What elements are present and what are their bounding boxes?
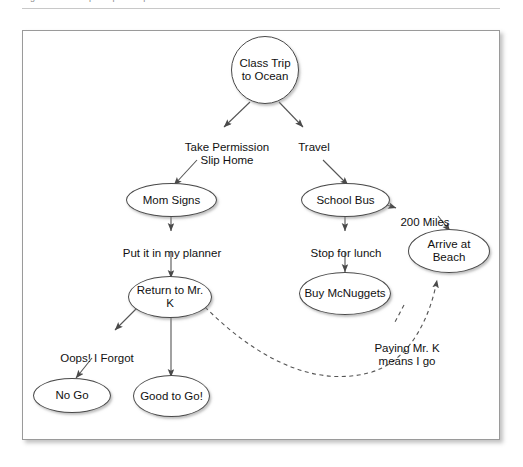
edge-label-oops-forgot-text: Oops! I Forgot <box>60 352 134 364</box>
node-no-go-label: No Go <box>52 389 91 402</box>
node-return-mr-k-label: Return to Mr. K <box>129 284 211 310</box>
figure-page: Figure 1. Concept map example <box>0 0 523 467</box>
node-mom-signs-label: Mom Signs <box>140 194 204 207</box>
edge-label-take-permission-text: Take Permission Slip Home <box>185 141 269 166</box>
edge-label-stop-lunch-text: Stop for lunch <box>311 247 382 259</box>
edge-label-200-miles-text: 200 Miles <box>400 216 449 228</box>
node-class-trip-label: Class Trip to Ocean <box>232 57 298 83</box>
node-no-go[interactable]: No Go <box>33 378 111 413</box>
node-school-bus[interactable]: School Bus <box>301 183 390 217</box>
node-mom-signs[interactable]: Mom Signs <box>126 183 217 217</box>
node-arrive-beach-label: Arrive at Beach <box>409 238 489 264</box>
node-arrive-beach[interactable]: Arrive at Beach <box>408 229 490 273</box>
edge-label-put-planner-text: Put it in my planner <box>123 247 221 259</box>
edge-label-paying-mr-k-text: Paying Mr. K means I go <box>374 342 439 367</box>
edge-label-stop-lunch: Stop for lunch <box>302 234 390 260</box>
node-good-to-go[interactable]: Good to Go! <box>133 375 210 417</box>
node-school-bus-label: School Bus <box>313 194 377 207</box>
caption-strip: Figure 1. Concept map example <box>0 0 523 9</box>
edge-label-take-permission: Take Permission Slip Home <box>165 128 289 167</box>
edge-label-travel-text: Travel <box>298 141 330 153</box>
node-return-mr-k[interactable]: Return to Mr. K <box>128 276 212 318</box>
node-buy-mcnuggets[interactable]: Buy McNuggets <box>299 272 391 315</box>
edge-label-put-planner: Put it in my planner <box>104 234 240 260</box>
caption-text: Figure 1. Concept map example <box>22 0 156 2</box>
node-class-trip[interactable]: Class Trip to Ocean <box>231 36 299 104</box>
edge-label-200-miles: 200 Miles <box>391 203 459 229</box>
edge-label-oops-forgot: Oops! I Forgot <box>47 339 147 365</box>
node-buy-mcnuggets-label: Buy McNuggets <box>301 287 388 300</box>
edge-label-paying-mr-k: Paying Mr. K means I go <box>361 329 453 368</box>
edge-label-travel: Travel <box>288 128 340 154</box>
node-good-to-go-label: Good to Go! <box>137 390 206 403</box>
caption-rule <box>22 8 500 9</box>
